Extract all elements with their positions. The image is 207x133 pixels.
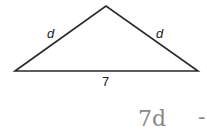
base-label: 7 (102, 74, 109, 89)
right-side-label: d (156, 26, 164, 41)
triangle (15, 6, 198, 71)
handwritten-mark: - (198, 104, 205, 129)
handwritten-answer: 7d (138, 106, 166, 131)
triangle-diagram: d d 7 7d - (0, 0, 207, 133)
left-side-label: d (47, 26, 55, 41)
